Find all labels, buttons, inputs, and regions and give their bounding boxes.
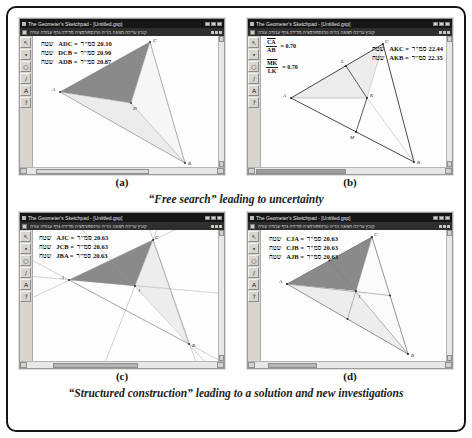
label-tool[interactable]: A xyxy=(248,85,259,96)
menubar[interactable]: קובץ עריכה תצוגה בנייה טרנספורמציה מדידה… xyxy=(248,222,452,230)
doc-minimize-button[interactable] xyxy=(211,225,214,228)
horizontal-scrollbar[interactable] xyxy=(20,167,224,174)
scroll-right-button[interactable] xyxy=(217,362,224,368)
minimize-button[interactable] xyxy=(433,216,438,220)
menubar[interactable]: קובץ עריכה תצוגה בנייה טרנספורמציה מדידה… xyxy=(20,28,224,36)
document-restore-icon[interactable] xyxy=(250,224,255,229)
doc-restore-button[interactable] xyxy=(443,31,446,34)
help-tool[interactable]: ? xyxy=(20,291,31,302)
maximize-button[interactable] xyxy=(439,22,444,26)
doc-close-button[interactable] xyxy=(219,225,222,228)
close-button[interactable] xyxy=(217,216,222,220)
close-button[interactable] xyxy=(217,22,222,26)
menu-items[interactable]: קובץ עריכה תצוגה בנייה טרנספורמציה מדידה… xyxy=(258,30,436,35)
close-button[interactable] xyxy=(445,22,450,26)
scroll-up-button[interactable] xyxy=(447,36,452,42)
circle-tool[interactable]: ○ xyxy=(248,255,259,266)
horizontal-scrollbar[interactable] xyxy=(248,361,452,368)
app-icon xyxy=(250,22,254,26)
doc-close-button[interactable] xyxy=(447,225,450,228)
horizontal-scrollbar[interactable] xyxy=(248,167,452,174)
point-tool[interactable]: • xyxy=(248,243,259,254)
app-icon xyxy=(22,22,26,26)
maximize-button[interactable] xyxy=(439,216,444,220)
selection-arrow-tool[interactable]: ↖ xyxy=(248,37,259,48)
doc-restore-button[interactable] xyxy=(215,31,218,34)
horizontal-scrollbar[interactable] xyxy=(20,361,224,368)
label-tool[interactable]: A xyxy=(20,85,31,96)
label-tool[interactable]: A xyxy=(20,279,31,290)
sketch-canvas-d[interactable]: שטח CJA = סמ"ר 20.63 שטח CJB = סמ"ר 20.6… xyxy=(261,230,446,361)
maximize-button[interactable] xyxy=(211,216,216,220)
label-tool[interactable]: A xyxy=(248,279,259,290)
point-tool[interactable]: • xyxy=(20,243,31,254)
titlebar[interactable]: The Geometer's Sketchpad - [Untitled.gsp… xyxy=(248,19,452,28)
point-tool[interactable]: • xyxy=(248,49,259,60)
segment-tool[interactable]: / xyxy=(20,73,31,84)
scroll-left-button[interactable] xyxy=(248,168,255,174)
selection-arrow-tool[interactable]: ↖ xyxy=(20,37,31,48)
vertical-scrollbar[interactable] xyxy=(218,36,224,167)
circle-tool[interactable]: ○ xyxy=(20,61,31,72)
scroll-up-button[interactable] xyxy=(447,230,452,236)
help-tool[interactable]: ? xyxy=(248,97,259,108)
scroll-right-button[interactable] xyxy=(217,168,224,174)
doc-close-button[interactable] xyxy=(447,31,450,34)
segment-tool[interactable]: / xyxy=(248,267,259,278)
document-restore-icon[interactable] xyxy=(250,30,255,35)
menu-items[interactable]: קובץ עריכה תצוגה בנייה טרנספורמציה מדידה… xyxy=(30,30,208,35)
document-restore-icon[interactable] xyxy=(22,30,27,35)
scroll-up-button[interactable] xyxy=(219,36,224,42)
segment-tool[interactable]: / xyxy=(20,267,31,278)
menu-items[interactable]: קובץ עריכה תצוגה בנייה טרנספורמציה מדידה… xyxy=(258,224,436,229)
doc-restore-button[interactable] xyxy=(443,225,446,228)
sketch-canvas-a[interactable]: שטח ADC = סמ"ר 20.10 שטח DCB = סמ"ר 20.9… xyxy=(33,36,218,167)
doc-minimize-button[interactable] xyxy=(439,225,442,228)
minimize-button[interactable] xyxy=(205,22,210,26)
help-tool[interactable]: ? xyxy=(248,291,259,302)
titlebar[interactable]: The Geometer's Sketchpad - [Untitled.gsp… xyxy=(20,213,224,222)
segment-tool[interactable]: / xyxy=(248,73,259,84)
point-tool[interactable]: • xyxy=(20,49,31,60)
titlebar[interactable]: The Geometer's Sketchpad - [Untitled.gsp… xyxy=(248,213,452,222)
document-restore-icon[interactable] xyxy=(22,224,27,229)
scrollbar-thumb[interactable] xyxy=(256,169,346,174)
circle-tool[interactable]: ○ xyxy=(248,61,259,72)
sketch-canvas-b[interactable]: CA AB = 0.70 MK LK = 0.70 xyxy=(261,36,446,167)
vertical-scrollbar[interactable] xyxy=(446,230,452,361)
scroll-left-button[interactable] xyxy=(248,362,255,368)
maximize-button[interactable] xyxy=(211,22,216,26)
sketch-canvas-c[interactable]: שטח AJC = סמ"ר 20.63 שטח JCB = סמ"ר 20.6… xyxy=(33,230,218,361)
doc-minimize-button[interactable] xyxy=(211,31,214,34)
window-title: The Geometer's Sketchpad - [Untitled.gsp… xyxy=(256,21,431,27)
scrollbar-thumb[interactable] xyxy=(268,363,317,368)
close-button[interactable] xyxy=(445,216,450,220)
circle-tool[interactable]: ○ xyxy=(20,255,31,266)
vertical-scrollbar[interactable] xyxy=(218,230,224,361)
scroll-left-button[interactable] xyxy=(20,362,27,368)
menu-items[interactable]: קובץ עריכה תצוגה בנייה טרנספורמציה מדידה… xyxy=(30,224,208,229)
measure-expr: AJB = xyxy=(286,253,304,261)
minimize-button[interactable] xyxy=(205,216,210,220)
titlebar[interactable]: The Geometer's Sketchpad - [Untitled.gsp… xyxy=(20,19,224,28)
measure-expr: JCB = xyxy=(56,243,74,251)
scrollbar-thumb[interactable] xyxy=(53,363,139,368)
doc-restore-button[interactable] xyxy=(215,225,218,228)
selection-arrow-tool[interactable]: ↖ xyxy=(248,231,259,242)
scroll-right-button[interactable] xyxy=(445,362,452,368)
selection-arrow-tool[interactable]: ↖ xyxy=(20,231,31,242)
vertical-scrollbar[interactable] xyxy=(446,36,452,167)
doc-close-button[interactable] xyxy=(219,31,222,34)
scroll-up-button[interactable] xyxy=(219,230,224,236)
help-tool[interactable]: ? xyxy=(20,97,31,108)
scroll-left-button[interactable] xyxy=(20,168,27,174)
scrollbar-thumb[interactable] xyxy=(36,169,148,174)
doc-minimize-button[interactable] xyxy=(439,31,442,34)
segment-KB[interactable] xyxy=(367,98,414,162)
minimize-button[interactable] xyxy=(433,22,438,26)
sketchpad-window-b: The Geometer's Sketchpad - [Untitled.gsp… xyxy=(247,18,453,175)
scroll-right-button[interactable] xyxy=(445,168,452,174)
menubar[interactable]: קובץ עריכה תצוגה בנייה טרנספורמציה מדידה… xyxy=(20,222,224,230)
menubar[interactable]: קובץ עריכה תצוגה בנייה טרנספורמציה מדידה… xyxy=(248,28,452,36)
sketchpad-window-c: The Geometer's Sketchpad - [Untitled.gsp… xyxy=(19,212,225,369)
